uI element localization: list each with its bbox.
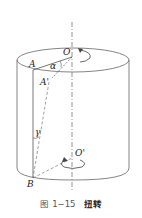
label-B: B — [26, 179, 34, 189]
caption-number: 图 1−15 — [40, 199, 75, 209]
gamma-arc — [33, 137, 39, 138]
label-O: O — [63, 47, 71, 57]
bottom-arrowhead-icon — [62, 157, 68, 162]
alpha-arc — [60, 61, 61, 67]
label-alpha: α — [50, 61, 56, 71]
caption-title: 扭转 — [84, 199, 102, 209]
bottom-face-arc — [17, 168, 129, 180]
top-rotation-arrow — [80, 50, 90, 62]
label-A: A — [28, 59, 36, 69]
label-A-prime: A' — [39, 77, 49, 87]
torsion-diagram: O O' A A' B α γ — [0, 0, 142, 218]
figure-caption: 图 1−15扭转 — [0, 197, 142, 209]
label-O-prime: O' — [75, 148, 85, 158]
label-gamma: γ — [35, 127, 41, 137]
